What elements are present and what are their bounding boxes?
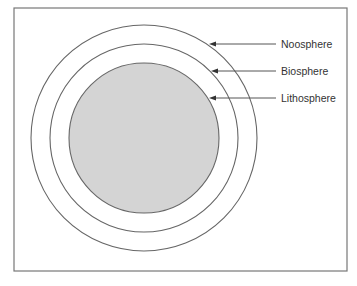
- label-arrows: [209, 42, 276, 101]
- sphere-circles: [31, 25, 257, 251]
- sphere-labels: Noosphere Biosphere Lithosphere: [281, 38, 336, 104]
- arrowhead-icon: [209, 96, 216, 101]
- label-biosphere: Biosphere: [281, 65, 328, 77]
- label-noosphere: Noosphere: [281, 38, 333, 50]
- lithosphere-circle: [69, 63, 219, 213]
- label-lithosphere: Lithosphere: [281, 92, 336, 104]
- spheres-diagram: Noosphere Biosphere Lithosphere: [0, 0, 357, 286]
